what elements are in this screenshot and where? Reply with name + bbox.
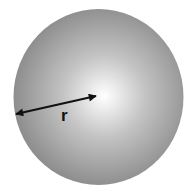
sphere <box>14 9 184 185</box>
sphere-diagram: r <box>0 0 192 189</box>
radius-label: r <box>61 106 68 125</box>
